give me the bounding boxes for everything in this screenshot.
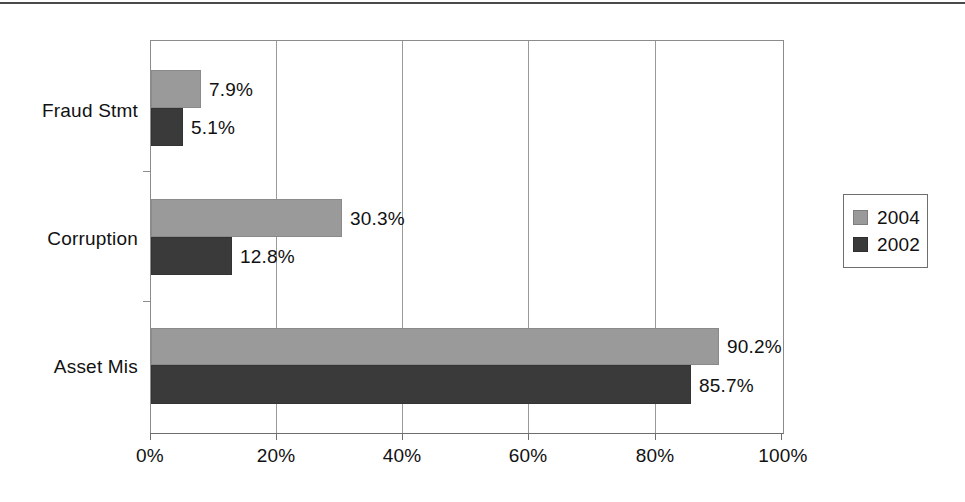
bar-label-corruption-2002: 12.8% [240, 247, 295, 266]
y-axis-tick-2 [143, 301, 151, 302]
x-axis-tick-20 [276, 433, 277, 440]
bar-corruption-2004 [151, 199, 342, 237]
x-axis-tick-40 [402, 433, 403, 440]
legend-swatch-2002-icon [853, 237, 868, 252]
x-axis-label-20: 20% [231, 446, 321, 465]
legend-entry-2002: 2002 [853, 231, 919, 258]
page-top-rule [0, 2, 965, 4]
bar-asset-mis-2004 [151, 328, 719, 365]
bar-label-asset-mis-2002: 85.7% [699, 376, 754, 395]
bar-label-asset-mis-2004: 90.2% [727, 337, 782, 356]
x-axis-label-60: 60% [483, 446, 573, 465]
chart-legend: 2004 2002 [843, 194, 928, 268]
y-axis-label-corruption: Corruption [3, 229, 138, 248]
x-axis-label-0: 0% [105, 446, 195, 465]
y-axis-label-fraud-stmt: Fraud Stmt [3, 101, 138, 120]
bar-label-corruption-2004: 30.3% [350, 209, 405, 228]
bar-asset-mis-2002 [151, 365, 691, 404]
y-axis-labels: Fraud Stmt Corruption Asset Mis [0, 0, 138, 502]
x-axis-tick-60 [528, 433, 529, 440]
chart-figure: 7.9% 5.1% 30.3% 12.8% 90.2% 85.7% Fraud … [0, 0, 965, 502]
x-axis-tick-0 [150, 433, 151, 440]
legend-entry-2004: 2004 [853, 204, 919, 231]
bar-fraud-stmt-2002 [151, 108, 183, 146]
bar-fraud-stmt-2004 [151, 70, 201, 108]
y-axis-label-asset-mis: Asset Mis [3, 357, 138, 376]
legend-swatch-2004-icon [853, 210, 868, 225]
x-axis-tick-100 [781, 433, 782, 440]
bar-label-fraud-stmt-2004: 7.9% [209, 80, 253, 99]
bar-corruption-2002 [151, 237, 232, 275]
x-axis-label-100: 100% [738, 446, 828, 465]
y-axis-tick-1 [143, 171, 151, 172]
x-axis-tick-80 [655, 433, 656, 440]
legend-label-2004: 2004 [877, 208, 920, 227]
bar-label-fraud-stmt-2002: 5.1% [191, 118, 235, 137]
x-axis-label-40: 40% [357, 446, 447, 465]
x-axis-label-80: 80% [610, 446, 700, 465]
legend-label-2002: 2002 [877, 235, 920, 254]
